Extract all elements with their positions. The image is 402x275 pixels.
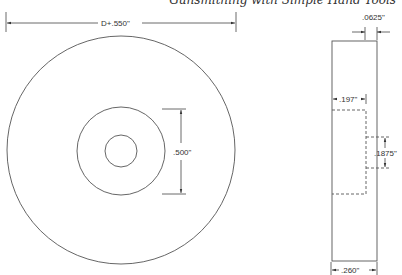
hidden-recess [332,110,366,194]
bore-label: .1875" [374,149,397,158]
side-outline [332,41,377,261]
flange-thickness-dimension [352,27,390,40]
outer-diameter-label: D+.550" [101,19,130,28]
front-view [7,36,235,264]
overall-width-label: .260" [341,266,360,275]
hub-circle [77,107,165,195]
flange-thickness-label: .0625" [362,13,385,22]
hub-diameter-label: .500" [173,148,192,157]
technical-drawing: D+.550" .500" .0625" .197" .1875" [0,0,402,275]
recess-depth-label: .197" [339,95,358,104]
outer-circle [7,36,235,264]
bore-circle [105,135,137,167]
